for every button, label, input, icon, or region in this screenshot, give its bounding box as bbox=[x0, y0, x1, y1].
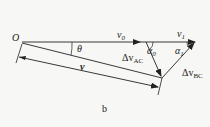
alpha0-label: α0 bbox=[147, 45, 156, 58]
dv-bc-label: ΔvBC bbox=[182, 67, 203, 80]
diagram-canvas: O θ v0 v1 α0 α1 ΔvAC ΔvBC v b bbox=[0, 0, 210, 127]
velocity-vector-diagram: O θ v0 v1 α0 α1 ΔvAC ΔvBC v b bbox=[0, 0, 210, 127]
alpha1-arc bbox=[187, 42, 189, 48]
alpha1-label: α1 bbox=[175, 45, 184, 58]
dv-ac-label: ΔvAC bbox=[122, 52, 143, 65]
v1-label: v1 bbox=[177, 28, 185, 41]
origin-label: O bbox=[12, 32, 19, 43]
theta-label: θ bbox=[77, 43, 82, 54]
figure-caption: b bbox=[102, 103, 107, 114]
v-label: v bbox=[80, 61, 85, 72]
theta-arc bbox=[71, 42, 72, 55]
left-tick bbox=[16, 44, 22, 63]
v0-label: v0 bbox=[117, 29, 125, 42]
right-tick bbox=[158, 78, 162, 95]
v-left-arrowhead bbox=[19, 56, 26, 60]
